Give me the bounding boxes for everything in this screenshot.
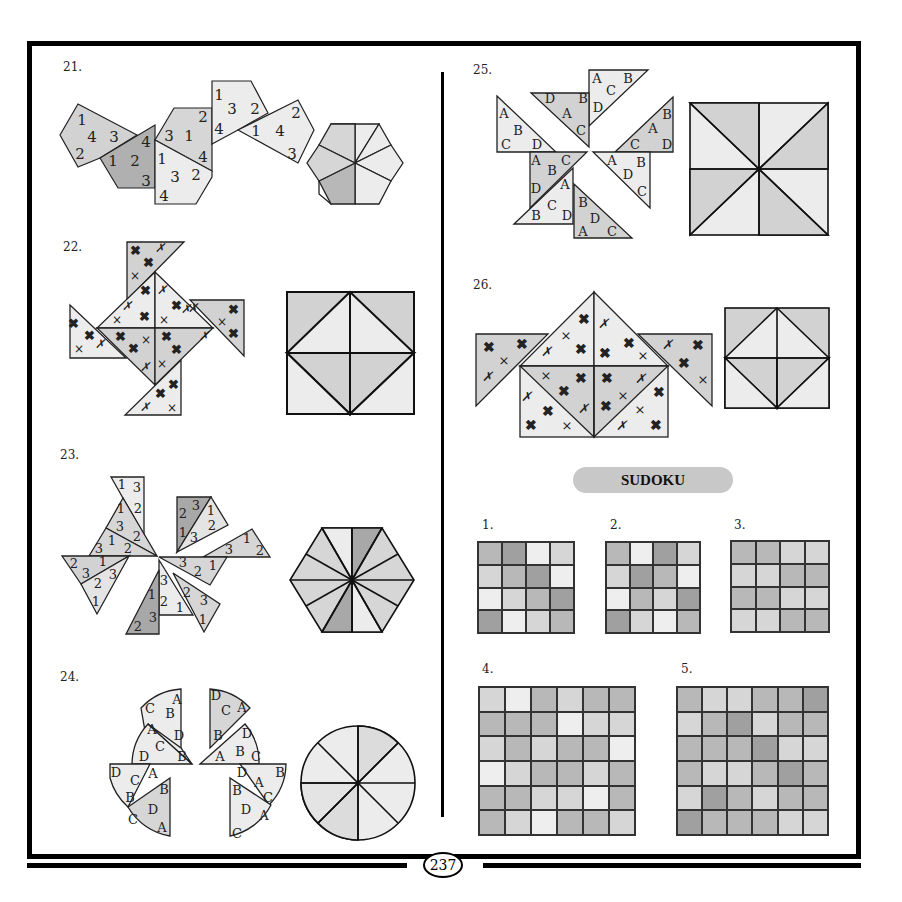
sudoku-cell <box>803 786 828 811</box>
sudoku-cell <box>550 610 574 633</box>
sudoku-cell <box>752 810 777 835</box>
sudoku-cell <box>780 609 805 632</box>
svg-text:✖: ✖ <box>68 316 79 331</box>
svg-text:2: 2 <box>75 145 85 163</box>
sudoku-cell <box>653 610 677 633</box>
sudoku-cell <box>478 588 502 611</box>
sudoku-grid-1 <box>477 541 575 634</box>
sudoku-cell <box>778 761 803 786</box>
sudoku-cell <box>778 810 803 835</box>
svg-text:D: D <box>662 137 672 152</box>
svg-text:2: 2 <box>208 518 216 533</box>
sudoku-cell <box>727 810 752 835</box>
svg-text:✖: ✖ <box>115 329 126 344</box>
puzzle-22-pieces: ✖✖✖✖✖ ✖✖✖✖ ✖✖✖✖ ✖✖ ✗✗✗✗✗ ✗✗✗✗ ××××× ××× <box>40 230 440 430</box>
sudoku-cell <box>609 761 635 786</box>
svg-text:B: B <box>125 790 135 805</box>
svg-text:4: 4 <box>198 148 208 166</box>
puzzle-23-pieces: 132 132 132 231 231 231 123 312 321 321 … <box>40 440 440 640</box>
sudoku-cell <box>752 736 777 761</box>
svg-text:✖: ✖ <box>600 398 612 414</box>
sudoku-cell <box>550 542 574 565</box>
svg-text:D: D <box>562 208 572 223</box>
svg-text:✖: ✖ <box>128 341 139 356</box>
sudoku-cell <box>479 687 505 712</box>
svg-text:3: 3 <box>287 145 297 163</box>
sudoku-cell <box>727 712 752 737</box>
svg-text:✖: ✖ <box>171 342 182 357</box>
sudoku-cell <box>677 610 701 633</box>
svg-text:✖: ✖ <box>84 328 95 343</box>
svg-text:✖: ✖ <box>525 417 537 433</box>
svg-text:D: D <box>532 137 542 152</box>
sudoku-cell <box>677 712 702 737</box>
sudoku-cell <box>752 687 777 712</box>
sudoku-cell <box>803 761 828 786</box>
svg-text:C: C <box>130 773 140 788</box>
svg-text:✗: ✗ <box>635 371 647 386</box>
sudoku-cell <box>609 712 635 737</box>
svg-text:2: 2 <box>250 100 260 118</box>
svg-text:3: 3 <box>116 519 124 534</box>
puzzle-24-pieces: ACBD ACDB DCAB DBAC DCAB BDCA DABC BDAC <box>40 660 440 850</box>
svg-text:B: B <box>177 749 187 764</box>
sudoku-cell <box>609 687 635 712</box>
sudoku-cell <box>702 687 727 712</box>
svg-text:✖: ✖ <box>578 311 590 327</box>
svg-text:✗: ✗ <box>482 369 494 384</box>
svg-text:✖: ✖ <box>601 370 613 386</box>
sudoku-cell <box>702 786 727 811</box>
svg-text:✖: ✖ <box>692 337 704 353</box>
svg-text:✗: ✗ <box>122 299 133 313</box>
sudoku-cell <box>502 542 526 565</box>
sudoku-cell <box>557 761 583 786</box>
svg-text:3: 3 <box>170 168 180 186</box>
svg-text:✗: ✗ <box>157 283 168 297</box>
footer-rule-left <box>27 863 407 868</box>
svg-text:✖: ✖ <box>558 383 570 399</box>
svg-text:×: × <box>561 328 572 343</box>
svg-text:3: 3 <box>149 610 157 625</box>
sudoku-cell <box>526 542 550 565</box>
svg-text:D: D <box>111 765 121 780</box>
sudoku-cell <box>606 588 630 611</box>
sudoku-cell <box>479 810 505 835</box>
sudoku-cell <box>677 761 702 786</box>
svg-text:×: × <box>157 357 167 371</box>
sudoku-5-number: 5. <box>681 662 692 676</box>
svg-text:C: C <box>263 790 273 805</box>
svg-text:×: × <box>541 368 552 383</box>
sudoku-cell <box>752 761 777 786</box>
svg-text:2: 2 <box>256 543 264 558</box>
svg-text:2: 2 <box>191 166 201 184</box>
sudoku-cell <box>526 610 550 633</box>
sudoku-cell <box>677 786 702 811</box>
svg-text:2: 2 <box>291 104 301 122</box>
sudoku-cell <box>583 810 609 835</box>
sudoku-cell <box>805 564 830 587</box>
sudoku-cell <box>702 712 727 737</box>
svg-text:✖: ✖ <box>130 243 141 258</box>
sudoku-cell <box>731 609 756 632</box>
svg-text:×: × <box>74 342 84 356</box>
svg-text:✗: ✗ <box>140 400 151 414</box>
svg-text:C: C <box>128 812 138 827</box>
sudoku-cell <box>505 761 531 786</box>
svg-text:✖: ✖ <box>678 355 690 371</box>
svg-text:×: × <box>112 313 122 327</box>
svg-text:C: C <box>251 749 261 764</box>
svg-text:×: × <box>159 313 169 327</box>
svg-text:✗: ✗ <box>140 360 151 374</box>
sudoku-cell <box>583 687 609 712</box>
sudoku-cell <box>478 542 502 565</box>
sudoku-cell <box>778 712 803 737</box>
svg-text:A: A <box>253 775 264 790</box>
svg-text:×: × <box>638 348 649 363</box>
svg-text:✗: ✗ <box>541 344 553 359</box>
svg-text:✖: ✖ <box>516 336 528 352</box>
svg-text:A: A <box>498 106 509 121</box>
svg-text:3: 3 <box>179 555 187 570</box>
footer-rule-right <box>483 863 861 868</box>
svg-text:A: A <box>156 820 167 835</box>
sudoku-cell <box>677 687 702 712</box>
